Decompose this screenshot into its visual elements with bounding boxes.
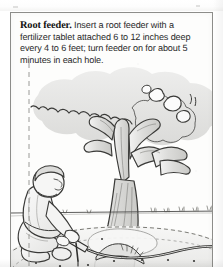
hole-marker: [101, 238, 103, 240]
scan-right-shadow: [213, 0, 223, 267]
hole-marker: [193, 260, 195, 262]
hole-marker: [87, 264, 89, 266]
person-front-shoe: [52, 248, 71, 260]
leaf-clump: [142, 85, 151, 93]
person-hand-lower: [57, 236, 70, 246]
hole-marker: [167, 259, 169, 261]
figure-box: Root feeder. Insert a root feeder with a…: [10, 12, 213, 267]
caption-lead-label: Root feeder.: [20, 20, 72, 31]
scanned-figure-page: Root feeder. Insert a root feeder with a…: [0, 0, 223, 267]
hole-marker: [113, 260, 115, 262]
scan-speck: [13, 6, 18, 8]
hole-marker: [141, 259, 143, 261]
leaf-clump: [177, 111, 191, 123]
scan-speck: [196, 5, 200, 7]
illustration-svg: [10, 61, 213, 267]
root-feeder-illustration: [10, 61, 213, 267]
figure-caption: Root feeder. Insert a root feeder with a…: [20, 20, 206, 66]
hole-marker: [35, 262, 37, 264]
scan-top-margin: [0, 0, 223, 11]
